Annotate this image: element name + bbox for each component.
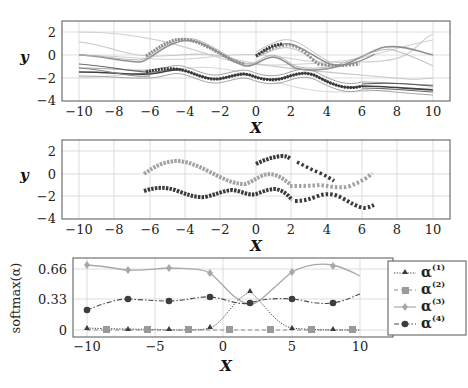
svg-text:−8: −8 xyxy=(104,104,123,119)
svg-text:10: 10 xyxy=(425,104,442,119)
svg-text:−2: −2 xyxy=(210,104,229,119)
svg-text:0: 0 xyxy=(59,323,67,338)
svg-text:−10: −10 xyxy=(65,104,92,119)
y-axis-label-middle: y xyxy=(19,166,30,184)
scatter-middle xyxy=(144,156,374,208)
svg-text:4: 4 xyxy=(323,104,331,119)
svg-text:10: 10 xyxy=(352,339,369,354)
figure: y 2 0 −2 −4 −10 −8 −6 −4 −2 0 2 4 6 8 10… xyxy=(0,0,468,388)
y-axis-label-bottom: softmax(α) xyxy=(8,263,23,334)
svg-text:10: 10 xyxy=(425,222,442,237)
svg-text:2: 2 xyxy=(287,104,295,119)
svg-text:2: 2 xyxy=(48,144,56,159)
svg-text:4: 4 xyxy=(323,222,331,237)
svg-text:−6: −6 xyxy=(140,222,159,237)
panel-top: y 2 0 −2 −4 −10 −8 −6 −4 −2 0 2 4 6 8 10… xyxy=(19,21,450,137)
svg-text:−6: −6 xyxy=(140,104,159,119)
svg-text:−2: −2 xyxy=(37,71,56,86)
svg-text:8: 8 xyxy=(393,104,401,119)
svg-text:(4): (4) xyxy=(432,313,445,323)
x-ticks-middle: −10 −8 −6 −4 −2 0 2 4 6 8 10 xyxy=(65,222,441,237)
svg-text:(3): (3) xyxy=(432,296,445,306)
svg-text:0: 0 xyxy=(252,104,260,119)
svg-text:6: 6 xyxy=(358,104,366,119)
panel-bottom: softmax(α) 0.66 0.33 0 −10 −5 0 5 10 X xyxy=(8,258,393,375)
markers-alpha4 xyxy=(84,294,337,314)
svg-text:α: α xyxy=(421,315,432,331)
x-axis-label-middle: X xyxy=(249,237,263,255)
svg-text:0: 0 xyxy=(48,167,56,182)
svg-text:0: 0 xyxy=(219,339,227,354)
svg-text:(2): (2) xyxy=(432,279,445,289)
svg-text:−2: −2 xyxy=(37,189,56,204)
y-ticks-bottom: 0.66 0.33 0 xyxy=(38,262,67,338)
svg-text:0.66: 0.66 xyxy=(38,262,67,277)
svg-text:−8: −8 xyxy=(104,222,123,237)
panel-middle: y 2 0 −2 −4 −10 −8 −6 −4 −2 0 2 4 6 8 10… xyxy=(19,140,450,255)
svg-text:α: α xyxy=(421,281,432,297)
y-ticks-top: 2 0 −2 −4 xyxy=(37,25,56,108)
svg-text:−2: −2 xyxy=(210,222,229,237)
x-axis-label-bottom: X xyxy=(219,357,233,375)
svg-text:8: 8 xyxy=(393,222,401,237)
svg-text:6: 6 xyxy=(358,222,366,237)
legend: α (1) α (2) α (3) α (4) xyxy=(388,261,466,335)
svg-text:−10: −10 xyxy=(65,222,92,237)
svg-text:0.33: 0.33 xyxy=(38,292,67,307)
svg-text:−4: −4 xyxy=(37,211,56,226)
svg-text:−4: −4 xyxy=(37,93,56,108)
svg-text:0: 0 xyxy=(252,222,260,237)
svg-text:α: α xyxy=(421,298,432,314)
svg-text:2: 2 xyxy=(48,25,56,40)
svg-text:α: α xyxy=(421,264,432,280)
svg-text:5: 5 xyxy=(288,339,296,354)
x-ticks-top: −10 −8 −6 −4 −2 0 2 4 6 8 10 xyxy=(65,104,441,119)
svg-text:−5: −5 xyxy=(145,339,164,354)
svg-text:−4: −4 xyxy=(175,222,194,237)
svg-text:−10: −10 xyxy=(73,339,100,354)
svg-text:0: 0 xyxy=(48,48,56,63)
svg-text:−4: −4 xyxy=(175,104,194,119)
svg-text:2: 2 xyxy=(287,222,295,237)
y-axis-label-top: y xyxy=(19,48,30,66)
x-ticks-bottom: −10 −5 0 5 10 xyxy=(73,339,368,354)
svg-text:(1): (1) xyxy=(432,262,445,272)
x-axis-label-top: X xyxy=(249,119,263,137)
y-ticks-middle: 2 0 −2 −4 xyxy=(37,144,56,226)
